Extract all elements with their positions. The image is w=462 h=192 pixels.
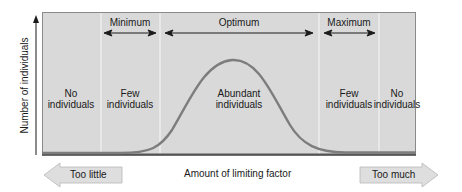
zone-label-line2: individuals [204,99,274,110]
range-label-minimum: Minimum [100,17,160,28]
diagram-panel [43,13,416,156]
too-little-label: Too little [70,169,107,180]
range-label-optimum: Optimum [209,17,269,28]
zone-label-few-individuals-left: Few individuals [95,88,165,110]
y-axis-label: Number of individuals [19,26,30,146]
range-label-maximum: Maximum [319,17,379,28]
zone-label-line1: Abundant [204,88,274,99]
zone-label-no-individuals-right: No individuals [362,88,432,110]
zone-label-line2: individuals [362,99,432,110]
x-axis-label: Amount of limiting factor [184,168,291,179]
zone-label-line1: No [362,88,432,99]
zone-label-abundant-individuals: Abundant individuals [204,88,274,110]
too-much-label: Too much [372,169,415,180]
y-axis-arrow [33,15,39,155]
zone-label-line1: Few [95,88,165,99]
zone-label-line2: individuals [95,99,165,110]
